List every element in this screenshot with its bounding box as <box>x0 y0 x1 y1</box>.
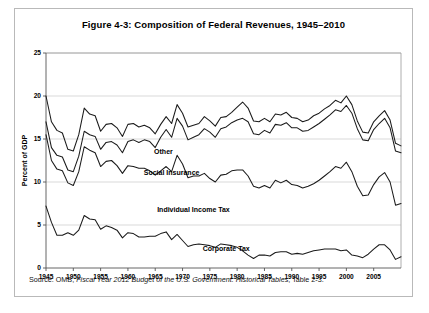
chart-plot-area: 0510152025 19451950195519601965197019751… <box>15 9 414 298</box>
gridlines <box>46 53 401 225</box>
y-tick-label-20: 20 <box>34 92 42 99</box>
y-tick-label-0: 0 <box>37 264 41 271</box>
y-tick-label-15: 15 <box>34 135 42 142</box>
revenue-composition-line-chart: 0510152025 19451950195519601965197019751… <box>15 9 414 298</box>
series-line-3 <box>46 96 401 151</box>
source-prefix: Source: OMB, <box>29 275 76 284</box>
source-title: Fiscal Year 2012 Budget of the U.S. Gove… <box>76 275 288 284</box>
series-label-corporate-tax: Corporate Tax <box>203 245 250 253</box>
y-axis-title: Percent of GDP <box>21 135 28 187</box>
series-label-other: Other <box>154 148 173 155</box>
series-label-social-insurance: Social Insurance <box>144 169 200 176</box>
y-axis-ticks: 0510152025 <box>34 49 46 271</box>
figure-container: Figure 4-3: Composition of Federal Reven… <box>14 8 413 297</box>
x-tick-label-2005: 2005 <box>366 273 381 280</box>
source-note: Source: OMB, Fiscal Year 2012 Budget of … <box>29 275 324 284</box>
series-annotations: OtherSocial InsuranceIndividual Income T… <box>144 148 250 253</box>
x-tick-label-2000: 2000 <box>339 273 354 280</box>
y-axis-title-text: Percent of GDP <box>21 135 28 187</box>
plot-frame <box>46 53 401 268</box>
series-label-individual-income-tax: Individual Income Tax <box>157 206 230 213</box>
data-series-lines <box>46 96 401 259</box>
y-tick-label-5: 5 <box>37 221 41 228</box>
y-tick-label-10: 10 <box>34 178 42 185</box>
y-tick-label-25: 25 <box>34 49 42 56</box>
source-suffix: , Table 2-3. <box>288 275 323 284</box>
